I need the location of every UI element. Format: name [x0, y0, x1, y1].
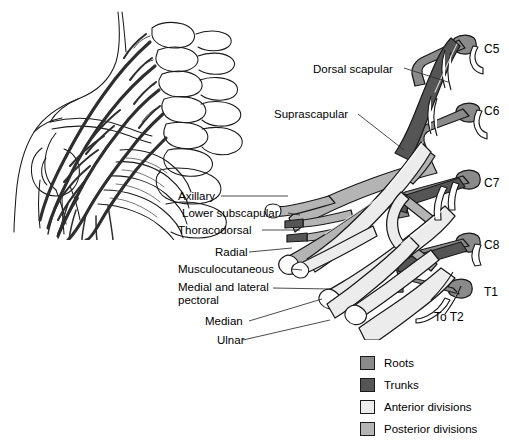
label-c8: C8 [484, 238, 499, 252]
leader-suprascapular [358, 114, 404, 150]
label-lower-subscapular: Lower subscapular [182, 207, 279, 220]
legend-swatch-roots [360, 356, 375, 370]
legend-swatch-trunks [360, 378, 375, 392]
label-c7: C7 [484, 176, 499, 190]
legend-item-trunks: Trunks [360, 374, 477, 396]
label-radial: Radial [215, 246, 248, 259]
label-median: Median [205, 315, 243, 328]
brachial-plexus-figure: .rt{fill:#8a8a8a;stroke:#1a1a1a;stroke-w… [0, 0, 509, 447]
leader-median [249, 299, 322, 321]
label-c6: C6 [484, 104, 499, 118]
legend-swatch-posterior-divisions [360, 422, 375, 436]
legend-label-trunks: Trunks [384, 379, 419, 391]
label-ulnar: Ulnar [217, 334, 244, 347]
label-pectoral-line1: Medial and lateral [178, 281, 269, 294]
leader-dorsal-scapular [404, 68, 448, 82]
legend-swatch-anterior-divisions [360, 400, 375, 414]
leader-lower-subscapular [288, 213, 300, 215]
legend-item-roots: Roots [360, 352, 477, 374]
label-musculocutaneous: Musculocutaneous [178, 263, 274, 276]
label-thoracodorsal: Thoracodorsal [178, 224, 252, 237]
legend: Roots Trunks Anterior divisions Posterio… [360, 352, 477, 440]
leader-musculocutaneous [291, 269, 302, 270]
leader-ulnar [243, 320, 330, 340]
leader-radial [249, 248, 292, 252]
label-c5: C5 [484, 42, 499, 56]
label-suprascapular: Suprascapular [274, 108, 348, 121]
label-pectoral-line2: pectoral [178, 294, 219, 307]
label-t1: T1 [484, 285, 498, 299]
label-axillary: Axillary [178, 190, 215, 203]
legend-label-posterior-divisions: Posterior divisions [384, 423, 477, 435]
legend-label-roots: Roots [384, 357, 414, 369]
leader-pectoral [273, 288, 330, 289]
legend-item-posterior-divisions: Posterior divisions [360, 418, 477, 440]
label-to-t2: To T2 [434, 310, 464, 324]
legend-label-anterior-divisions: Anterior divisions [384, 401, 472, 413]
label-dorsal-scapular: Dorsal scapular [313, 63, 393, 76]
legend-item-anterior-divisions: Anterior divisions [360, 396, 477, 418]
